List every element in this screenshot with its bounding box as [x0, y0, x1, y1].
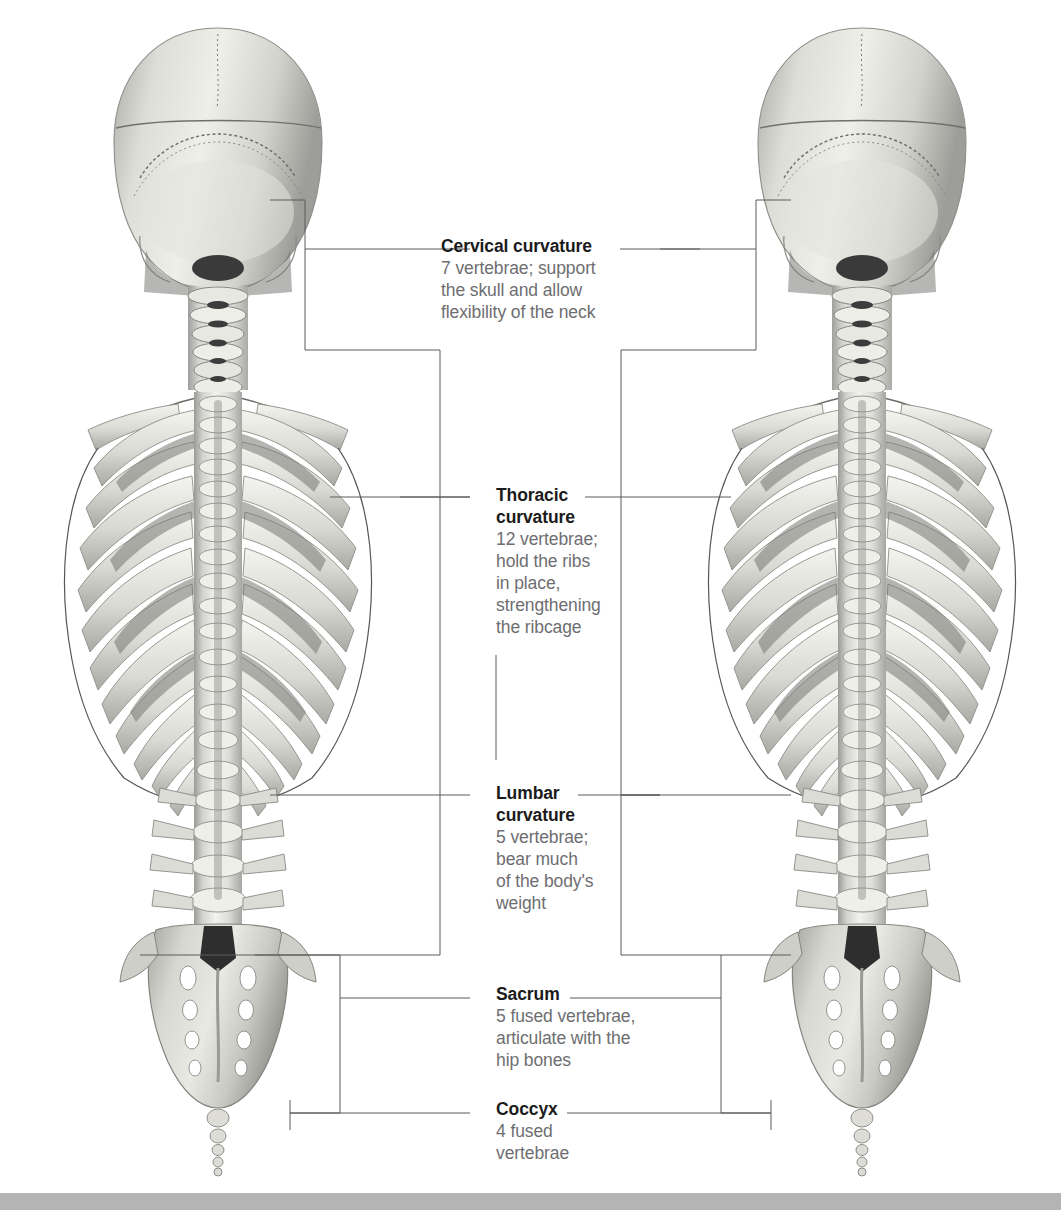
callout-lumbar-body: 5 vertebrae; bear much of the body's wei… — [496, 826, 656, 914]
coccyx — [207, 1109, 229, 1176]
callout-thoracic: Thoracic curvature 12 vertebrae; hold th… — [496, 484, 656, 638]
callout-coccyx: Coccyx 4 fused vertebrae — [496, 1098, 676, 1164]
sacrum — [120, 924, 316, 1108]
callout-sacrum-body: 5 fused vertebrae, articulate with the h… — [496, 1005, 716, 1071]
skull — [758, 28, 966, 296]
cervical-spine — [832, 286, 892, 396]
skeleton-figure-left — [28, 0, 408, 1190]
skull — [114, 28, 322, 296]
sacrum — [764, 924, 960, 1108]
callout-lumbar-title: Lumbar curvature — [496, 782, 656, 826]
cervical-spine — [188, 286, 248, 396]
callout-cervical-title: Cervical curvature — [441, 235, 671, 257]
callout-coccyx-title: Coccyx — [496, 1098, 676, 1120]
skeleton-figure-right — [672, 0, 1052, 1190]
callout-sacrum: Sacrum 5 fused vertebrae, articulate wit… — [496, 983, 716, 1071]
callout-coccyx-body: 4 fused vertebrae — [496, 1120, 676, 1164]
callout-sacrum-title: Sacrum — [496, 983, 716, 1005]
callout-cervical: Cervical curvature 7 vertebrae; support … — [441, 235, 671, 323]
callout-lumbar: Lumbar curvature 5 vertebrae; bear much … — [496, 782, 656, 914]
callout-thoracic-body: 12 vertebrae; hold the ribs in place, st… — [496, 528, 656, 638]
callout-cervical-body: 7 vertebrae; support the skull and allow… — [441, 257, 671, 323]
anatomy-diagram-page: Cervical curvature 7 vertebrae; support … — [0, 0, 1061, 1219]
callout-thoracic-title: Thoracic curvature — [496, 484, 656, 528]
bottom-band — [0, 1193, 1061, 1210]
coccyx — [851, 1109, 873, 1176]
